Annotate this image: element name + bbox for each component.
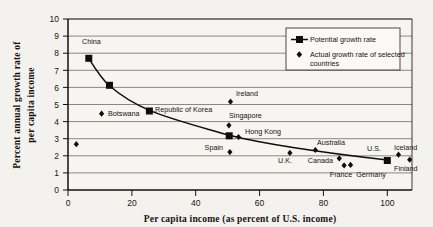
label-botswana: Botswana — [108, 109, 140, 118]
y-axis-title-line2: per capita income — [26, 67, 36, 143]
chart-legend: Potential growth rate Actual growth rate… — [286, 28, 405, 70]
y-tick-9: 9 — [54, 31, 59, 41]
label-australia: Australia — [317, 138, 345, 147]
label-singapore: Singapore — [229, 111, 262, 120]
y-tick-2: 2 — [54, 151, 59, 161]
x-axis-ticks — [68, 190, 387, 196]
y-tick-1: 1 — [54, 168, 59, 178]
square-marker-3 — [146, 108, 153, 115]
x-tick-40: 40 — [191, 198, 201, 208]
square-marker-1 — [85, 55, 92, 62]
x-tick-80: 80 — [319, 198, 329, 208]
y-tick-3: 3 — [54, 134, 59, 144]
x-tick-0: 0 — [66, 198, 71, 208]
label-finland: Finland — [394, 164, 418, 173]
label-china: China — [82, 37, 101, 46]
label-spain: Spain — [205, 143, 223, 152]
figure-container: 10 9 8 7 6 5 4 3 2 1 0 0 20 40 60 80 — [0, 0, 433, 227]
x-axis-title: Per capita income (as percent of U.S. in… — [144, 214, 337, 225]
legend-square-icon — [296, 36, 303, 43]
legend-label-potential: Potential growth rate — [310, 35, 376, 44]
label-france: France — [330, 170, 352, 179]
y-tick-5: 5 — [54, 100, 59, 110]
square-marker-2 — [106, 82, 113, 89]
label-ireland: Ireland — [236, 89, 258, 98]
x-tick-20: 20 — [127, 198, 137, 208]
growth-rate-scatter-chart: 10 9 8 7 6 5 4 3 2 1 0 0 20 40 60 80 — [0, 0, 433, 227]
y-tick-10: 10 — [50, 14, 60, 24]
y-tick-0: 0 — [54, 185, 59, 195]
legend-label-actual-line1: Actual growth rate of selected — [310, 50, 405, 59]
label-uk: U.K. — [278, 156, 292, 165]
y-axis-title-line1: Percent annual growth rate of — [12, 41, 22, 169]
y-axis-tick-labels: 10 9 8 7 6 5 4 3 2 1 0 — [50, 14, 60, 195]
x-tick-60: 60 — [255, 198, 265, 208]
legend-label-actual-line2: countries — [310, 59, 340, 68]
square-marker-4 — [226, 132, 233, 139]
y-tick-8: 8 — [54, 48, 59, 58]
x-tick-100: 100 — [380, 198, 394, 208]
y-tick-4: 4 — [54, 117, 59, 127]
label-republic-of-korea: Republic of Korea — [155, 105, 212, 114]
label-germany: Germany — [356, 170, 386, 179]
label-hongkong: Hong Kong — [245, 127, 281, 136]
label-canada: Canada — [308, 156, 333, 165]
x-axis-tick-labels: 0 20 40 60 80 100 — [66, 198, 395, 208]
y-tick-6: 6 — [54, 83, 59, 93]
square-marker-5 — [384, 157, 391, 164]
label-iceland: Iceland — [394, 143, 417, 152]
y-axis-title: Percent annual growth rate of per capita… — [12, 41, 36, 169]
label-us: U.S. — [367, 144, 381, 153]
y-tick-7: 7 — [54, 66, 59, 76]
